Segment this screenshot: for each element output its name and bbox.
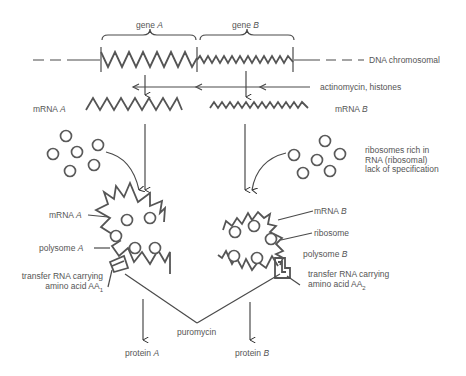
puromycin-inhibition-lines xyxy=(125,274,280,323)
ribosome-pool-b xyxy=(289,136,346,179)
protein-a-label: protein A xyxy=(125,349,159,359)
mrna-b-label: mRNA B xyxy=(335,105,368,115)
ribosome-a-arrow xyxy=(106,152,139,190)
ribosomes-label: ribosomes rich in RNA (ribosomal) lack o… xyxy=(365,146,439,175)
puromycin-label: puromycin xyxy=(177,328,216,338)
dna-label: DNA chromosomal xyxy=(369,56,440,66)
polysome-b xyxy=(218,212,300,285)
trna-b-label: transfer RNA carrying amino acid AA2 xyxy=(308,270,389,293)
polysome-b-label: polysome B xyxy=(303,250,347,260)
dna-chromosome xyxy=(33,47,364,72)
ribosome-label: ribosome xyxy=(314,229,349,239)
mrna-b-strand xyxy=(210,102,308,108)
gene-a-label: gene A xyxy=(136,21,163,31)
polysome-a xyxy=(96,183,170,287)
gene-a-brace xyxy=(102,29,196,40)
actinomycin-label: actinomycin, histones xyxy=(320,83,401,93)
ribosome-b-arrow xyxy=(252,153,286,190)
protein-synthesis-diagram: gene A gene B DNA chromosomal actinomyci… xyxy=(0,0,466,376)
mrna-a-strand xyxy=(86,98,182,110)
mrna-a-label: mRNA A xyxy=(33,105,66,115)
gene-b-brace xyxy=(200,29,294,40)
polysome-a-label: polysome A xyxy=(39,244,83,254)
ribosome-pool-a xyxy=(48,131,104,177)
gene-b-label: gene B xyxy=(232,21,259,31)
polysome-mrna-a-label: mRNA A xyxy=(49,211,82,221)
actinomycin-inhibition-line xyxy=(133,84,310,90)
protein-b-label: protein B xyxy=(235,349,269,359)
trna-a-label: transfer RNA carrying amino acid AA1 xyxy=(13,272,103,295)
polysome-mrna-b-label: mRNA B xyxy=(314,207,347,217)
